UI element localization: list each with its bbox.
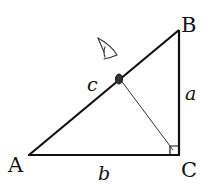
- vertex-label-a: A: [7, 153, 24, 177]
- side-label-a: a: [185, 82, 196, 104]
- hypotenuse-point: [116, 74, 123, 84]
- vertex-label-c: C: [181, 158, 197, 182]
- triangle-diagram: B C A a b c: [0, 0, 213, 190]
- side-label-c: c: [87, 73, 98, 95]
- side-label-b: b: [98, 162, 110, 184]
- eye-sketch-icon: [98, 38, 117, 59]
- cevian-line: [120, 79, 173, 150]
- vertex-label-b: B: [181, 13, 196, 37]
